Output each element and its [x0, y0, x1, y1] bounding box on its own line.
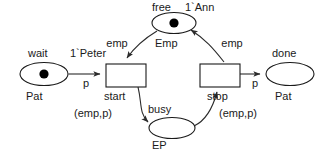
arc-label-wait-to-start: p	[83, 77, 89, 89]
token-wait	[39, 69, 48, 78]
transition-start[interactable]	[106, 64, 146, 87]
place-free-name: free	[152, 1, 171, 13]
arc-start-to-busy	[138, 87, 148, 122]
place-done-colorset: Pat	[275, 90, 292, 102]
transition-stop[interactable]	[200, 64, 240, 87]
place-layer	[20, 13, 314, 139]
place-wait-name: wait	[27, 47, 48, 59]
transition-stop-name: stop	[207, 90, 228, 102]
arc-label-stop-to-done: p	[252, 77, 258, 89]
place-done[interactable]	[266, 63, 314, 86]
token-free	[169, 18, 178, 27]
arc-label-stop-to-free: emp	[221, 37, 242, 49]
transition-layer	[106, 64, 240, 87]
petri-net-canvas: wait 1`Peter Pat free 1`Ann Emp busy EP …	[0, 0, 329, 154]
place-busy-colorset: EP	[152, 139, 167, 151]
place-done-name: done	[272, 47, 296, 59]
place-free-colorset: Emp	[155, 37, 178, 49]
place-busy-name: busy	[148, 103, 172, 115]
petri-net-diagram: wait 1`Peter Pat free 1`Ann Emp busy EP …	[0, 0, 329, 154]
place-free-marking: 1`Ann	[185, 1, 214, 13]
arc-label-start-to-busy: (emp,p)	[74, 107, 112, 119]
arc-label-free-to-start: emp	[106, 37, 127, 49]
place-busy[interactable]	[149, 118, 195, 139]
place-wait-marking: 1`Peter	[70, 47, 106, 59]
transition-start-name: start	[104, 90, 125, 102]
arc-label-busy-to-stop: (emp,p)	[219, 107, 257, 119]
arc-stop-to-free	[191, 30, 224, 62]
place-wait-colorset: Pat	[26, 90, 43, 102]
arc-free-to-start	[127, 31, 157, 58]
